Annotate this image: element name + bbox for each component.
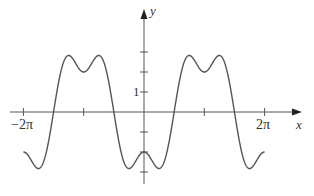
y-axis-label: y [150, 4, 156, 17]
x-tick-label-neg-2pi: −2π [11, 118, 33, 132]
x-tick-label-2pi: 2π [256, 118, 270, 132]
x-axis-label: x [296, 118, 302, 131]
chart-plot-area [0, 0, 314, 196]
x-axis-arrow-icon [292, 109, 302, 116]
y-axis-arrow-icon [141, 9, 148, 19]
y-tick-label-1: 1 [133, 85, 140, 98]
